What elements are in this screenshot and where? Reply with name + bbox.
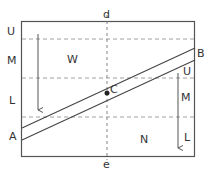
label-n: N — [140, 133, 148, 146]
diagram-frame — [22, 22, 195, 157]
left-scale-u: U — [7, 25, 15, 38]
label-w: W — [67, 53, 78, 66]
band-lower-edge — [22, 60, 195, 140]
label-b: B — [197, 47, 205, 60]
label-e: e — [103, 158, 110, 171]
diagram-canvas: d e A B C W N U M L U M L — [0, 0, 211, 173]
label-d: d — [103, 8, 110, 21]
right-scale-u: U — [183, 65, 191, 78]
label-c: C — [110, 83, 118, 96]
left-scale-m: M — [7, 54, 17, 67]
band-upper-edge — [22, 48, 195, 128]
label-a: A — [9, 130, 17, 143]
left-scale-l: L — [9, 94, 16, 107]
right-scale-l: L — [184, 131, 191, 144]
center-point-c — [105, 91, 110, 96]
right-scale-m: M — [181, 91, 191, 104]
